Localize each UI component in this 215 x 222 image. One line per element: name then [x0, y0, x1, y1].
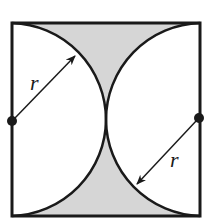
left-center-dot: [7, 116, 17, 126]
right-radius-label: r: [170, 147, 179, 172]
right-radius-arrow: [137, 120, 197, 184]
right-center-dot: [194, 113, 204, 123]
diagram-figure: r r: [0, 0, 215, 222]
diagram-canvas: r r: [0, 0, 215, 222]
left-radius-label: r: [30, 70, 39, 95]
left-radius-arrow: [14, 56, 75, 119]
